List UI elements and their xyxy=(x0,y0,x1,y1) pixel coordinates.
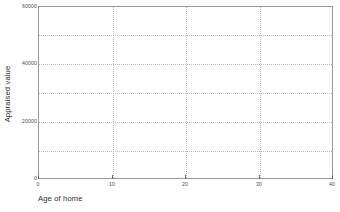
x-tick-label-20: 20 xyxy=(182,181,188,187)
x-tick-mark-10 xyxy=(112,175,113,179)
x-tick-mark-0 xyxy=(38,175,39,179)
gridline-vertical-20 xyxy=(186,7,187,178)
x-tick-label-0: 0 xyxy=(37,181,40,187)
x-tick-label-30: 30 xyxy=(256,181,262,187)
x-tick-mark-40 xyxy=(332,175,333,179)
scatter-plot-figure: Appraised value 60000 40000 20000 0 0 10… xyxy=(0,0,340,212)
y-tick-label-20000: 20000 xyxy=(22,118,37,124)
y-axis-title-text: Appraised value xyxy=(3,66,12,123)
y-tick-label-40000: 40000 xyxy=(22,60,37,66)
x-tick-label-40: 40 xyxy=(329,181,335,187)
y-axis-title: Appraised value xyxy=(0,44,14,144)
x-axis-title: Age of home xyxy=(38,194,83,203)
gridline-vertical-30 xyxy=(260,7,261,178)
gridline-vertical-10 xyxy=(113,7,114,178)
x-tick-mark-20 xyxy=(185,175,186,179)
y-tick-label-60000: 60000 xyxy=(22,3,37,9)
x-tick-mark-30 xyxy=(259,175,260,179)
plot-area xyxy=(38,6,333,179)
x-tick-label-10: 10 xyxy=(109,181,115,187)
